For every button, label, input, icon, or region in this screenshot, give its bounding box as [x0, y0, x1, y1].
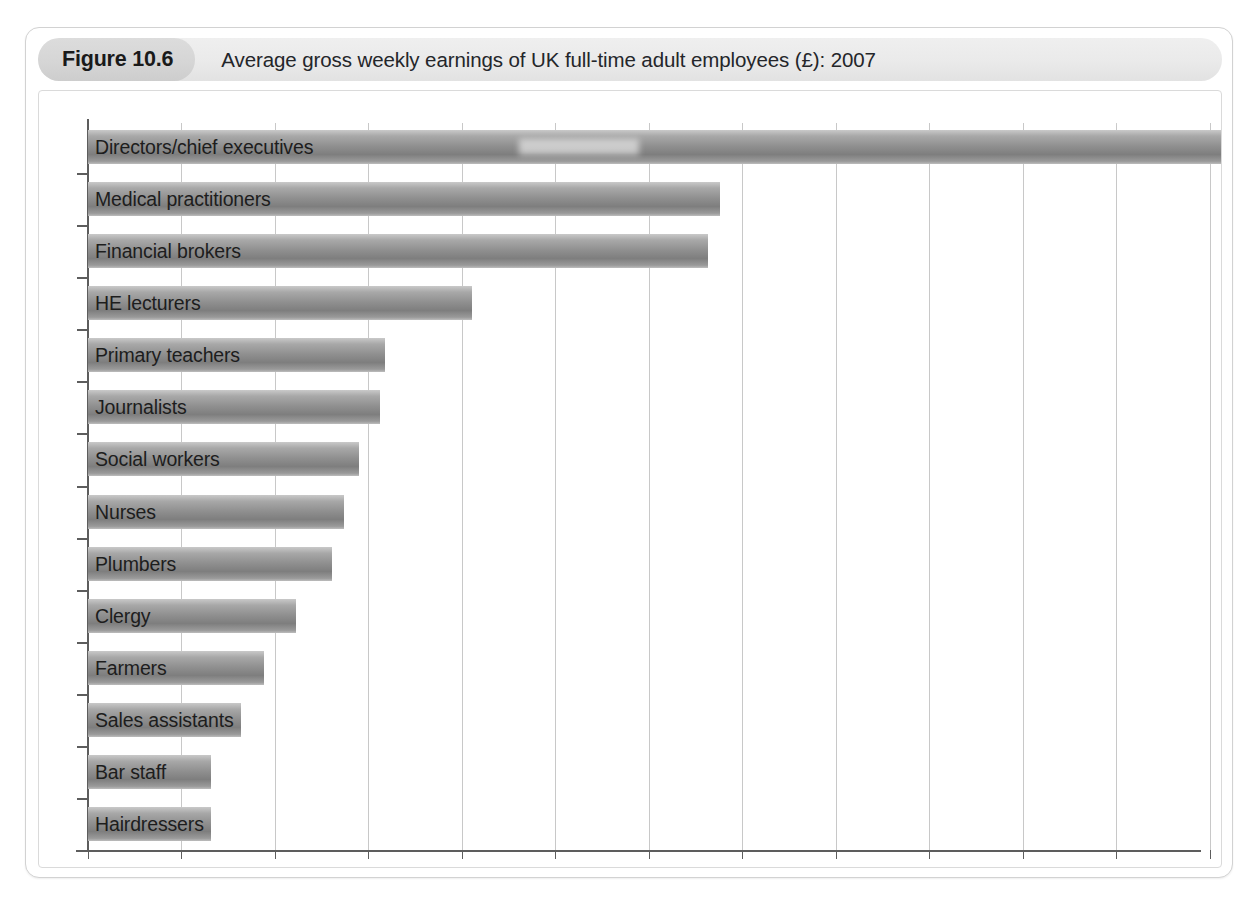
bar-label: Nurses: [95, 495, 156, 529]
y-axis-tick: [77, 433, 88, 435]
y-axis-tick: [77, 850, 88, 852]
gridline: [649, 123, 650, 852]
gridline: [1116, 123, 1117, 852]
bar-row[interactable]: HE lecturers: [88, 286, 472, 320]
bar-row[interactable]: Nurses: [88, 495, 344, 529]
bar-row[interactable]: Journalists: [88, 390, 380, 424]
x-axis-tick-label: 1800: [907, 865, 952, 868]
x-axis-tick: [462, 850, 463, 859]
bar-row[interactable]: Plumbers: [88, 547, 332, 581]
figure-card: Figure 10.6 Average gross weekly earning…: [25, 27, 1233, 878]
x-axis-tick: [929, 850, 930, 859]
x-axis-tick-label: 2200: [1094, 865, 1139, 868]
bar-row[interactable]: Financial brokers: [88, 234, 708, 268]
bar-label: Sales assistants: [95, 703, 234, 737]
bar-label: Directors/chief executives: [95, 130, 313, 164]
y-axis-tick: [77, 642, 88, 644]
y-axis-tick: [77, 173, 88, 175]
x-axis-tick-label: 800: [445, 865, 478, 868]
gridline: [275, 123, 276, 852]
y-axis-tick: [77, 486, 88, 488]
x-axis-tick-label: 2000: [1001, 865, 1046, 868]
x-axis-tick-label: 1200: [627, 865, 672, 868]
bar-label: Financial brokers: [95, 234, 241, 268]
bar-row[interactable]: Bar staff: [88, 755, 211, 789]
x-axis-tick: [555, 850, 556, 859]
chart-axis-region: 0200400600800100012001400160018002000220…: [88, 123, 1193, 852]
x-axis-tick: [1210, 850, 1211, 859]
y-axis-tick: [77, 694, 88, 696]
x-axis-tick-label: 1600: [814, 865, 859, 868]
bar-row[interactable]: Hairdressers: [88, 807, 211, 841]
bar-row[interactable]: Sales assistants: [88, 703, 241, 737]
x-axis-tick-label: 1000: [533, 865, 578, 868]
gridline: [368, 123, 369, 852]
x-axis-tick-label: 0: [82, 865, 93, 868]
bar-label: Plumbers: [95, 547, 176, 581]
figure-number-badge: Figure 10.6: [38, 38, 195, 81]
x-axis-tick-label: 200: [165, 865, 198, 868]
y-axis-tick: [77, 381, 88, 383]
x-axis-tick: [836, 850, 837, 859]
bar-label: Medical practitioners: [95, 182, 271, 216]
bar-label: Social workers: [95, 442, 220, 476]
x-axis-tick-label: 400: [258, 865, 291, 868]
bar-row[interactable]: Social workers: [88, 442, 359, 476]
bar-row[interactable]: Directors/chief executives: [88, 130, 1222, 164]
gridline: [1023, 123, 1024, 852]
x-axis-tick: [368, 850, 369, 859]
x-axis-tick-label: 600: [352, 865, 385, 868]
y-axis-tick: [77, 590, 88, 592]
x-axis-tick: [1116, 850, 1117, 859]
gridline: [742, 123, 743, 852]
bar-label: Hairdressers: [95, 807, 204, 841]
bar-row[interactable]: Farmers: [88, 651, 264, 685]
x-axis-line: [76, 850, 1201, 852]
bar-label: Farmers: [95, 651, 167, 685]
bar-label: Journalists: [95, 390, 187, 424]
figure-title: Average gross weekly earnings of UK full…: [221, 48, 876, 72]
x-axis-tick: [1023, 850, 1024, 859]
bar-label: HE lecturers: [95, 286, 200, 320]
x-axis-tick: [88, 850, 89, 859]
bar-label: Primary teachers: [95, 338, 240, 372]
figure-page: { "figure": { "badge": "Figure 10.6", "t…: [0, 0, 1253, 897]
x-axis-tick: [181, 850, 182, 859]
gridline: [836, 123, 837, 852]
bar-row[interactable]: Medical practitioners: [88, 182, 720, 216]
x-axis-tick: [649, 850, 650, 859]
figure-caption-bar: Figure 10.6 Average gross weekly earning…: [38, 38, 1222, 81]
gridline: [929, 123, 930, 852]
x-axis-tick-label: 2400: [1188, 865, 1222, 868]
bar-label: Bar staff: [95, 755, 166, 789]
chart-plot-area: 0200400600800100012001400160018002000220…: [57, 105, 1211, 867]
x-axis-tick: [742, 850, 743, 859]
gridline: [555, 123, 556, 852]
y-axis-tick: [77, 329, 88, 331]
y-axis-tick: [77, 277, 88, 279]
bar-label: Clergy: [95, 599, 150, 633]
x-axis-tick-label: 1400: [720, 865, 765, 868]
chart-plot-frame: 0200400600800100012001400160018002000220…: [38, 90, 1222, 868]
y-axis-tick: [77, 225, 88, 227]
y-axis-tick: [77, 538, 88, 540]
gridline: [181, 123, 182, 852]
y-axis-tick: [77, 798, 88, 800]
x-axis-tick: [275, 850, 276, 859]
gridline: [1210, 123, 1211, 852]
y-axis-tick: [77, 746, 88, 748]
bar-row[interactable]: Primary teachers: [88, 338, 385, 372]
gridline: [462, 123, 463, 852]
bar-row[interactable]: Clergy: [88, 599, 296, 633]
